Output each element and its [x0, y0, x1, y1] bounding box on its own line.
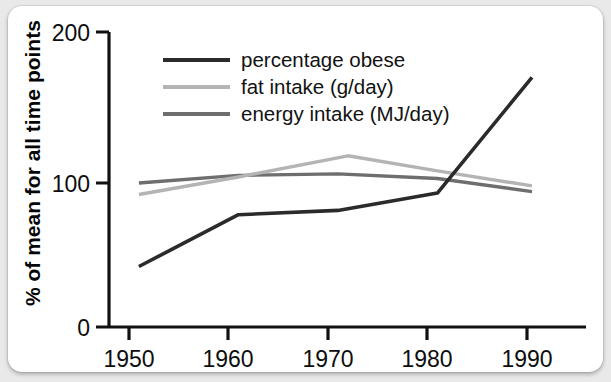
x-tick-label-1980: 1980: [401, 346, 452, 372]
y-tick-label-100: 100: [52, 171, 90, 197]
x-tick-label-1970: 1970: [302, 346, 353, 372]
y-tick-label-200: 200: [52, 20, 90, 46]
x-tick-label-1990: 1990: [501, 346, 552, 372]
legend-label-fat-intake: fat intake (g/day): [241, 75, 394, 98]
chart-svg: 200 100 0 1950 1960 1970 1980 1990 % of …: [8, 6, 603, 372]
line-chart: 200 100 0 1950 1960 1970 1980 1990 % of …: [8, 6, 603, 372]
legend-label-percentage-obese: percentage obese: [241, 48, 405, 71]
figure-card: 200 100 0 1950 1960 1970 1980 1990 % of …: [8, 6, 603, 372]
x-tick-label-1960: 1960: [202, 346, 253, 372]
y-axis-title: % of mean for all time points: [21, 20, 44, 306]
legend-label-energy-intake: energy intake (MJ/day): [241, 102, 450, 125]
x-tick-label-1950: 1950: [103, 346, 154, 372]
y-tick-label-0: 0: [77, 315, 90, 341]
